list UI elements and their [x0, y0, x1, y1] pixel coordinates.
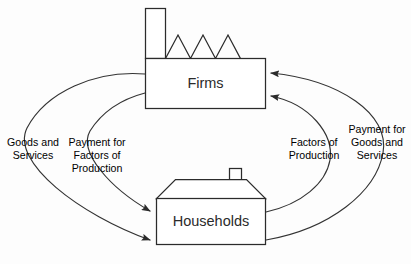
node-households[interactable]: Households: [157, 169, 266, 245]
flow-label-line: Payment for: [344, 123, 410, 136]
house-roof: [157, 180, 266, 199]
flow-label-line: Goods and: [2, 136, 64, 149]
flow-label-line: Production: [284, 149, 344, 162]
flow-label-factors-of-production: Factors of Production: [284, 136, 344, 162]
flow-label-line: Production: [64, 162, 130, 175]
node-households-label: Households: [173, 213, 250, 229]
factory-smokestack: [146, 9, 166, 59]
flow-label-line: Payment for: [64, 136, 130, 149]
flow-label-line: Services: [2, 149, 64, 162]
flow-label-payment-for-goods-and-services: Payment for Goods and Services: [344, 123, 410, 161]
flow-label-line: Goods and: [344, 136, 410, 149]
flow-label-line: Factors of: [284, 136, 344, 149]
node-firms-label: Firms: [187, 75, 223, 91]
flow-label-line: Services: [344, 149, 410, 162]
flow-label-payment-for-factors-of-production: Payment for Factors of Production: [64, 136, 130, 174]
flow-label-line: Factors of: [64, 149, 130, 162]
factory-sawtooth-roof: [166, 35, 266, 59]
flow-label-goods-and-services: Goods and Services: [2, 136, 64, 162]
node-firms[interactable]: Firms: [146, 9, 266, 109]
circular-flow-diagram: Firms Households Goods and Services Paym…: [0, 0, 411, 264]
